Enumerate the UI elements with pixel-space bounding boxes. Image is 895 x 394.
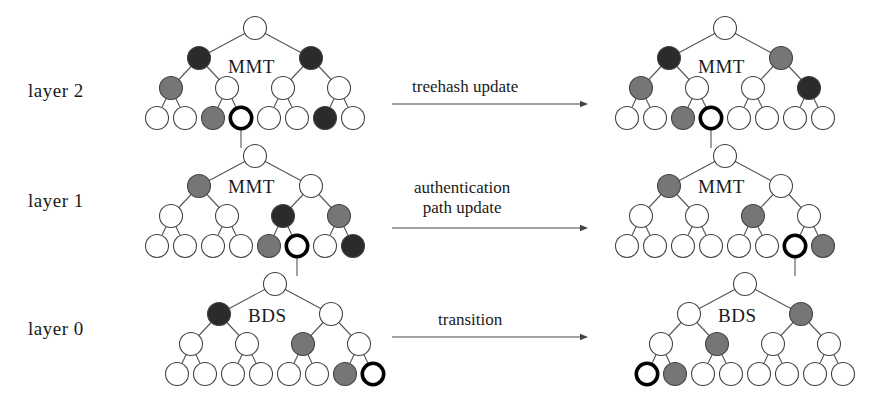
- tree-node-white: [812, 107, 835, 130]
- tree-node-dark: [188, 47, 211, 70]
- tree-name-label: MMT: [698, 176, 745, 198]
- tree-node-white: [216, 205, 239, 228]
- figure-canvas: MMTMMTMMTMMTBDSBDSlayer 2layer 1layer 0t…: [0, 0, 895, 394]
- tree-node-dark: [314, 107, 337, 130]
- tree-node-white: [692, 363, 715, 386]
- tree-node-white: [244, 17, 267, 40]
- arrow-label-authentication-path-update: authenticationpath update: [414, 178, 510, 217]
- tree-layer0-before: [166, 273, 384, 386]
- tree-node-white: [616, 235, 639, 258]
- tree-node-white: [714, 17, 737, 40]
- arrow-label-line: transition: [438, 310, 502, 330]
- tree-node-white: [314, 235, 337, 258]
- tree-node-white: [784, 107, 807, 130]
- tree-node-white: [644, 235, 667, 258]
- tree-node-gray: [770, 47, 793, 70]
- tree-node-white: [174, 107, 197, 130]
- layer-label: layer 2: [28, 80, 84, 102]
- arrow-treehash-update: [392, 101, 588, 107]
- arrow-label-line: treehash update: [412, 77, 518, 97]
- tree-node-white: [342, 107, 365, 130]
- tree-node-white: [222, 363, 245, 386]
- tree-node-gray: [664, 363, 687, 386]
- tree-name-label: BDS: [248, 305, 286, 327]
- tree-node-white: [728, 107, 751, 130]
- tree-node-gray: [630, 77, 653, 100]
- tree-node-white: [630, 205, 653, 228]
- tree-node-white: [216, 77, 239, 100]
- tree-layer0-after: [636, 273, 854, 386]
- tree-node-white: [306, 363, 329, 386]
- tree-node-dark: [300, 47, 323, 70]
- tree-layer1-after: [616, 145, 835, 277]
- tree-node-white: [146, 107, 169, 130]
- tree-node-white: [146, 235, 169, 258]
- tree-node-gray: [658, 175, 681, 198]
- tree-node-gray: [258, 235, 281, 258]
- tree-node-white: [686, 77, 709, 100]
- tree-node-dark: [208, 303, 231, 326]
- tree-node-white: [776, 363, 799, 386]
- tree-node-white: [728, 235, 751, 258]
- tree-node-white: [700, 235, 723, 258]
- tree-node-white: [818, 333, 841, 356]
- tree-node-gray: [672, 107, 695, 130]
- tree-node-white: [180, 333, 203, 356]
- tree-node-white: [286, 107, 309, 130]
- tree-node-gray: [202, 107, 225, 130]
- tree-node-white: [616, 107, 639, 130]
- tree-node-dark: [342, 235, 365, 258]
- tree-name-label: MMT: [228, 176, 275, 198]
- tree-node-dark: [272, 205, 295, 228]
- tree-node-white: [320, 303, 343, 326]
- tree-node-white: [328, 77, 351, 100]
- layer-label: layer 0: [28, 318, 84, 340]
- tree-node-gray: [328, 205, 351, 228]
- tree-node-white: [230, 235, 253, 258]
- tree-node-white: [804, 363, 827, 386]
- tree-node-highlight: [286, 235, 307, 256]
- tree-node-dark: [658, 47, 681, 70]
- tree-node-white: [250, 363, 273, 386]
- tree-layer1-before: [146, 145, 365, 277]
- tree-node-white: [770, 175, 793, 198]
- arrow-head: [580, 334, 588, 340]
- tree-node-white: [258, 107, 281, 130]
- tree-node-gray: [742, 205, 765, 228]
- tree-node-white: [264, 273, 287, 296]
- tree-node-white: [300, 175, 323, 198]
- tree-node-white: [798, 205, 821, 228]
- tree-node-white: [672, 235, 695, 258]
- arrow-head: [580, 225, 588, 231]
- tree-name-label: MMT: [228, 56, 275, 78]
- arrow-label-line: path update: [414, 198, 510, 218]
- tree-node-white: [678, 303, 701, 326]
- tree-node-gray: [334, 363, 357, 386]
- tree-node-highlight: [636, 363, 657, 384]
- arrow-authentication-path-update: [392, 225, 588, 231]
- tree-node-white: [742, 77, 765, 100]
- tree-node-gray: [812, 235, 835, 258]
- tree-node-white: [348, 333, 371, 356]
- tree-node-white: [272, 77, 295, 100]
- tree-node-white: [720, 363, 743, 386]
- tree-node-gray: [790, 303, 813, 326]
- tree-name-label: BDS: [718, 305, 756, 327]
- arrow-label-transition: transition: [438, 310, 502, 330]
- tree-node-white: [166, 363, 189, 386]
- arrow-label-treehash-update: treehash update: [412, 77, 518, 97]
- tree-node-white: [244, 145, 267, 168]
- tree-node-white: [278, 363, 301, 386]
- tree-node-highlight: [784, 235, 805, 256]
- arrow-label-line: authentication: [414, 178, 510, 198]
- tree-node-white: [160, 205, 183, 228]
- tree-node-white: [734, 273, 757, 296]
- tree-node-highlight: [700, 107, 721, 128]
- arrow-transition: [392, 334, 588, 340]
- tree-node-white: [650, 333, 673, 356]
- tree-layer2-after: [616, 17, 835, 149]
- tree-node-white: [762, 333, 785, 356]
- tree-node-gray: [706, 333, 729, 356]
- tree-node-white: [174, 235, 197, 258]
- tree-node-white: [832, 363, 855, 386]
